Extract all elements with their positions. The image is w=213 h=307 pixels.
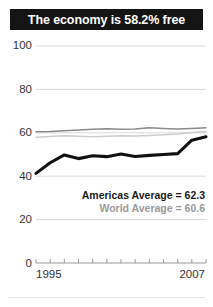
- y-tick-label-20: 20: [2, 214, 32, 226]
- economy-freedom-chart-card: The economy is 58.2% free 100 80 60 40 2…: [0, 0, 213, 307]
- x-tick-label-end: 2007: [179, 269, 205, 281]
- chart-legend: Americas Average = 62.3 World Average = …: [82, 189, 205, 216]
- y-tick-label-80: 80: [2, 84, 32, 96]
- line-chart-svg: [0, 36, 213, 281]
- y-tick-label-40: 40: [2, 171, 32, 183]
- plot-area: [0, 36, 213, 281]
- footer-divider: [8, 297, 205, 298]
- y-tick-label-60: 60: [2, 127, 32, 139]
- y-tick-label-100: 100: [2, 40, 32, 52]
- chart-title-banner: The economy is 58.2% free: [10, 9, 203, 30]
- x-tick-label-start: 1995: [36, 269, 62, 281]
- y-tick-label-0: 0: [2, 258, 32, 270]
- page-title: The economy is 58.2% free: [28, 13, 185, 27]
- legend-item-americas-average: Americas Average = 62.3: [82, 189, 205, 202]
- series-line-americas-average: [36, 128, 206, 132]
- legend-item-world-average: World Average = 60.6: [82, 202, 205, 215]
- series-line-country: [36, 137, 206, 174]
